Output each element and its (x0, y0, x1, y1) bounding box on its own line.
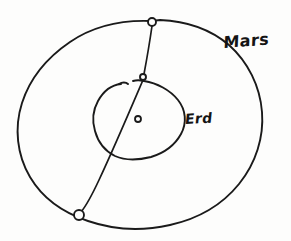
mars-label: Mars (223, 29, 269, 52)
marker-junction-icon (140, 74, 146, 80)
earth-label: Erd (184, 110, 213, 128)
sketch-canvas: Mars Erd (0, 0, 291, 241)
marker-bottom-left-icon (74, 210, 84, 220)
sight-line-lower-segment (81, 80, 143, 212)
earth-orbit-gap-hook (119, 83, 128, 85)
sight-line-upper-segment (144, 26, 152, 74)
marker-top-icon (148, 18, 156, 26)
marker-center-sun-icon (135, 116, 141, 122)
